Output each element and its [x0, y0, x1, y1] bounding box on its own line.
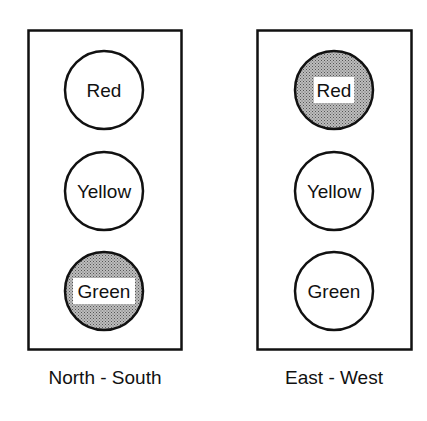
north-south-caption: North - South	[15, 367, 195, 389]
light-red: Red	[295, 51, 373, 129]
light-label-red: Red	[317, 80, 352, 101]
light-label-yellow: Yellow	[307, 181, 362, 202]
light-yellow: Yellow	[295, 152, 373, 230]
light-green: Green	[65, 252, 143, 330]
east-west-caption: East - West	[244, 367, 424, 389]
traffic-signals-diagram: RedYellowGreen RedYellowGreen	[0, 0, 427, 421]
north-south-signal: RedYellowGreen	[29, 31, 182, 350]
east-west-signal: RedYellowGreen	[258, 31, 412, 350]
light-label-red: Red	[87, 80, 122, 101]
light-yellow: Yellow	[65, 152, 143, 230]
light-red: Red	[65, 51, 143, 129]
light-label-green: Green	[78, 281, 131, 302]
light-label-green: Green	[308, 281, 361, 302]
light-label-yellow: Yellow	[77, 181, 132, 202]
light-green: Green	[295, 252, 373, 330]
